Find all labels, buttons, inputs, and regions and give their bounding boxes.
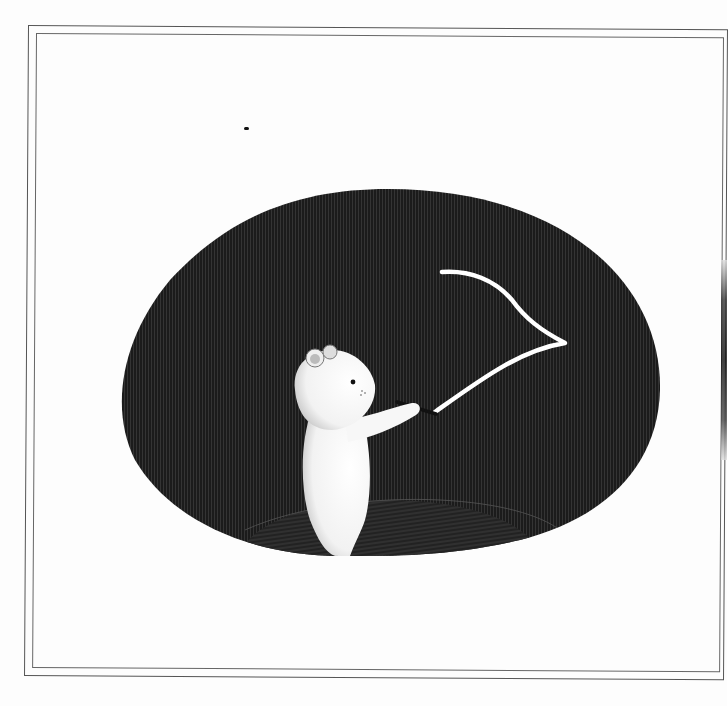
ground-mound <box>240 500 540 620</box>
bear-eye <box>351 380 356 385</box>
